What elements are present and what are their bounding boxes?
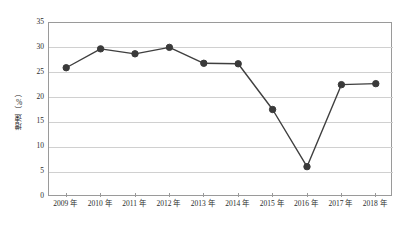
data-line	[66, 47, 376, 166]
x-axis-tick-label: 2016 年	[294, 199, 318, 208]
data-point-marker[interactable]: 2016 年: 6.1	[304, 163, 310, 169]
y-axis-tick-label: 35	[28, 18, 44, 26]
data-point-marker[interactable]: 2017 年: 22.6	[338, 81, 344, 87]
line-chart: 增速（%） 05101520253035 2009 年: 262010 年: 2…	[0, 0, 405, 230]
data-point-marker[interactable]: 2010 年: 29.8	[97, 46, 103, 52]
data-point-marker[interactable]: 2014 年: 26.8	[235, 61, 241, 67]
y-axis-tick-label: 20	[28, 93, 44, 101]
x-axis-tick-label: 2013 年	[191, 199, 215, 208]
data-point-marker[interactable]: 2018 年: 22.8	[373, 80, 379, 86]
y-axis-tick-label: 0	[28, 192, 44, 200]
x-axis-tick-label: 2015 年	[260, 199, 284, 208]
data-point-marker[interactable]: 2015 年: 17.6	[269, 106, 275, 112]
plot-area: 2009 年: 262010 年: 29.82011 年: 28.82012 年…	[48, 22, 392, 196]
y-axis-tick-label: 5	[28, 167, 44, 175]
y-axis-tick-label: 30	[28, 43, 44, 51]
y-axis-tick-label: 25	[28, 68, 44, 76]
plot-svg: 2009 年: 262010 年: 29.82011 年: 28.82012 年…	[49, 23, 393, 197]
x-axis-tick-label: 2018 年	[363, 199, 387, 208]
y-axis-tick-label: 15	[28, 117, 44, 125]
x-axis-tick-labels: 2009 年2010 年2011 年2012 年2013 年2014 年2015…	[48, 199, 392, 219]
y-axis-tick-label: 10	[28, 142, 44, 150]
y-axis-tick-labels: 05101520253035	[26, 0, 44, 230]
data-point-marker[interactable]: 2009 年: 26	[63, 65, 69, 71]
data-point-marker[interactable]: 2011 年: 28.8	[132, 51, 138, 57]
x-axis-tick-label: 2009 年	[53, 199, 77, 208]
data-point-marker[interactable]: 2012 年: 30.1	[166, 44, 172, 50]
x-axis-tick-label: 2011 年	[122, 199, 146, 208]
x-axis-tick-label: 2014 年	[225, 199, 249, 208]
x-axis-tick-label: 2012 年	[156, 199, 180, 208]
x-axis-tick-label: 2010 年	[88, 199, 112, 208]
data-point-marker[interactable]: 2013 年: 26.9	[201, 60, 207, 66]
x-axis-tick-label: 2017 年	[328, 199, 352, 208]
